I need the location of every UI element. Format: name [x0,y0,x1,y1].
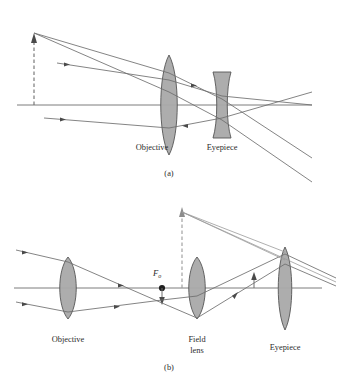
ray-b-1-arrowhead-2 [118,284,124,288]
ray-a-1-in [34,33,169,73]
panel-b-caption: (b) [164,363,174,372]
ray-b-1-arrowhead [22,251,28,255]
ray-b-2-arrowhead [22,302,28,306]
panel-a-diagram: Objective Eyepiece (a) [0,0,338,190]
object-arrow-head-a [31,33,37,43]
panel-b-diagram: Fo Objective Field lens Eyepiece (b) [0,190,338,377]
objective-label-b: Objective [52,335,85,344]
ray-b-1-mid3 [197,264,285,318]
objective-label-a: Objective [136,143,169,152]
objective-lens-b [60,257,77,319]
field-lens-label-line2: lens [190,346,204,355]
ray-a-3-in [57,63,169,80]
ray-b-1-mid [68,262,162,303]
ray-b-1-arrowhead-3 [232,292,238,299]
ray-a-1-arrowhead [191,83,197,87]
field-lens-b [189,257,206,319]
virtual-ray-b-3 [182,212,336,282]
ray-b-1-out [285,264,336,286]
ray-b-2-out [285,254,336,278]
ray-a-3-out [222,96,312,105]
focal-point-label-b: Fo [152,268,161,279]
eyepiece-lens-b [278,247,292,330]
ray-a-4-arrowhead-2 [182,124,188,128]
ray-b-2-mid3 [197,254,285,296]
eyepiece-label-b: Eyepiece [270,343,301,352]
ray-a-3-arrowhead [64,63,70,67]
virtual-ray-b-1 [182,212,285,252]
panel-a-caption: (a) [164,169,174,178]
objective-lens-a [161,55,178,155]
eyepiece-label-a: Eyepiece [207,143,238,152]
ray-a-4-arrowhead [60,118,66,122]
ray-a-2-in [34,33,169,92]
image-arrow-up-head-b [251,272,257,280]
focal-point-subscript: o [158,273,161,279]
field-lens-label-line1: Field [188,335,206,344]
telescope-figure: Objective Eyepiece (a) [0,0,338,377]
